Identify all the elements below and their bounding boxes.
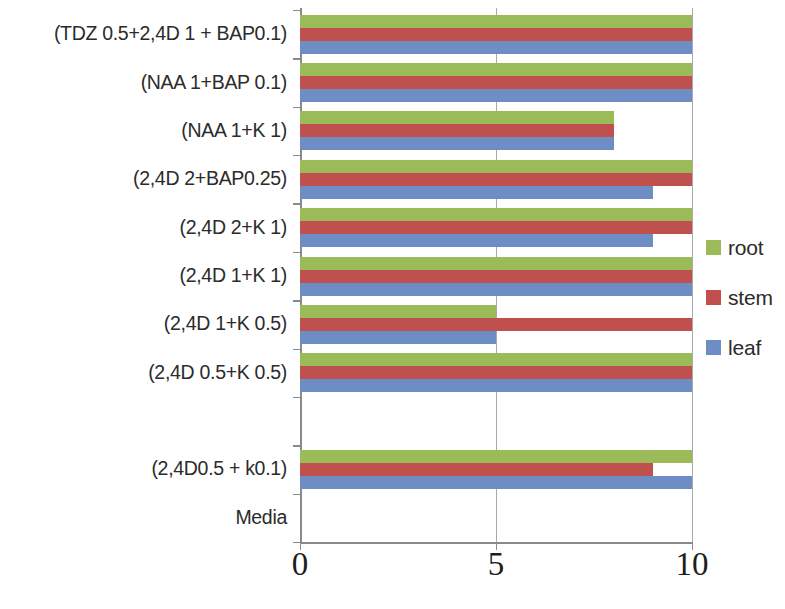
category-label: (2,4D 0.5+K 0.5) <box>148 363 287 383</box>
bar-group <box>300 305 692 344</box>
bar-root <box>300 111 614 124</box>
y-axis-tick <box>293 203 300 204</box>
bar-stem <box>300 76 692 89</box>
category-label: (NAA 1+BAP 0.1) <box>141 73 287 93</box>
bar-root <box>300 353 692 366</box>
y-axis-tick <box>293 10 300 11</box>
bar-group <box>300 353 692 392</box>
plot-area <box>300 10 692 542</box>
category-label: (2,4D 2+BAP0.25) <box>133 169 287 189</box>
bar-group <box>300 111 692 150</box>
bar-leaf <box>300 89 692 102</box>
bar-group <box>300 63 692 102</box>
y-axis-tick <box>293 494 300 495</box>
y-axis-tick <box>293 155 300 156</box>
y-axis-tick <box>293 349 300 350</box>
legend-item-root[interactable]: root <box>706 222 785 272</box>
y-axis-tick <box>293 300 300 301</box>
bar-root <box>300 160 692 173</box>
bar-leaf <box>300 283 692 296</box>
legend-label: leaf <box>728 337 761 358</box>
legend-label: stem <box>728 287 773 308</box>
bar-root <box>300 305 496 318</box>
category-axis-labels: (TDZ 0.5+2,4D 1 + BAP0.1)(NAA 1+BAP 0.1)… <box>0 10 293 542</box>
legend-item-leaf[interactable]: leaf <box>706 322 785 372</box>
legend-label: root <box>728 237 763 258</box>
bar-group <box>300 498 692 537</box>
bar-root <box>300 450 692 463</box>
bar-group <box>300 208 692 247</box>
bar-stem <box>300 221 692 234</box>
legend-swatch-icon <box>706 340 721 355</box>
bar-stem <box>300 366 692 379</box>
category-label: (2,4D 1+K 1) <box>180 266 288 286</box>
y-axis-tick <box>293 107 300 108</box>
legend-swatch-icon <box>706 290 721 305</box>
bar-root <box>300 208 692 221</box>
x-tick-label: 10 <box>676 548 709 581</box>
bar-root <box>300 15 692 28</box>
bar-group <box>300 15 692 54</box>
bar-leaf <box>300 476 692 489</box>
bar-group <box>300 160 692 199</box>
bar-leaf <box>300 137 614 150</box>
chart-legend: rootstemleaf <box>706 222 785 372</box>
bar-stem <box>300 463 653 476</box>
y-axis-tick <box>293 542 300 543</box>
category-label: (2,4D0.5 + k0.1) <box>151 459 287 479</box>
x-tick-label: 5 <box>488 548 505 581</box>
bar-group <box>300 450 692 489</box>
y-axis-tick <box>293 252 300 253</box>
category-label: Media <box>235 508 287 528</box>
x-axis-tick-labels: 0510 <box>300 548 692 593</box>
gridline <box>692 8 693 542</box>
bar-stem <box>300 173 692 186</box>
legend-item-stem[interactable]: stem <box>706 272 785 322</box>
y-axis-tick <box>293 397 300 398</box>
bar-stem <box>300 124 614 137</box>
y-axis-tick <box>293 445 300 446</box>
bar-group <box>300 402 692 441</box>
bar-chart: (TDZ 0.5+2,4D 1 + BAP0.1)(NAA 1+BAP 0.1)… <box>0 0 785 609</box>
bar-leaf <box>300 41 692 54</box>
legend-swatch-icon <box>706 240 721 255</box>
bar-leaf <box>300 234 653 247</box>
bar-stem <box>300 28 692 41</box>
bar-stem <box>300 270 692 283</box>
bar-root <box>300 257 692 270</box>
bar-stem <box>300 318 692 331</box>
y-axis-tick <box>293 58 300 59</box>
bar-root <box>300 63 692 76</box>
category-label: (2,4D 2+K 1) <box>180 218 288 238</box>
bar-leaf <box>300 331 496 344</box>
category-label: (TDZ 0.5+2,4D 1 + BAP0.1) <box>54 24 287 44</box>
category-label: (NAA 1+K 1) <box>181 121 287 141</box>
x-tick-label: 0 <box>292 548 309 581</box>
bar-group <box>300 257 692 296</box>
category-label: (2,4D 1+K 0.5) <box>164 314 287 334</box>
bar-leaf <box>300 379 692 392</box>
bar-leaf <box>300 186 653 199</box>
